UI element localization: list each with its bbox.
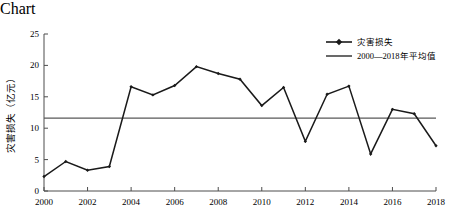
x-tick-label: 2008 [209, 197, 228, 207]
y-axis-ticks [44, 34, 48, 191]
y-tick-label: 5 [35, 155, 40, 165]
y-tick-label: 0 [35, 186, 40, 196]
legend-item-average[interactable]: 2000—2018年平均值 [326, 51, 436, 61]
x-tick-label: 2012 [296, 197, 314, 207]
y-axis-tick-labels: 0 5 10 15 20 25 [30, 29, 40, 196]
x-tick-label: 2006 [166, 197, 185, 207]
x-tick-label: 2000 [35, 197, 54, 207]
data-point-marker [108, 165, 111, 168]
legend-label-disaster-loss: 灾害损失 [357, 37, 393, 47]
data-point-markers [42, 65, 437, 178]
x-tick-label: 2016 [383, 197, 402, 207]
chart-container: 0 5 10 15 20 25 200020022004200620082010… [0, 18, 456, 219]
x-tick-label: 2010 [253, 197, 272, 207]
x-tick-label: 2004 [122, 197, 141, 207]
legend-label-average: 2000—2018年平均值 [357, 51, 436, 61]
x-axis-tick-labels: 2000200220042006200820102012201420162018 [35, 197, 446, 207]
legend: 灾害损失 2000—2018年平均值 [326, 37, 436, 61]
x-tick-label: 2014 [340, 197, 359, 207]
y-tick-label: 20 [30, 60, 40, 70]
y-tick-label: 25 [30, 29, 40, 39]
y-tick-label: 15 [30, 92, 40, 102]
x-axis-ticks [44, 187, 436, 191]
x-tick-label: 2018 [427, 197, 446, 207]
legend-item-disaster-loss[interactable]: 灾害损失 [326, 37, 393, 47]
legend-diamond-marker-icon [336, 39, 342, 45]
line-chart: 0 5 10 15 20 25 200020022004200620082010… [0, 18, 456, 219]
y-axis-title: 灾害损失（亿元） [5, 73, 16, 153]
disaster-loss-line [44, 67, 436, 177]
y-tick-label: 10 [30, 123, 40, 133]
x-tick-label: 2002 [79, 197, 97, 207]
data-point-marker [217, 72, 220, 75]
